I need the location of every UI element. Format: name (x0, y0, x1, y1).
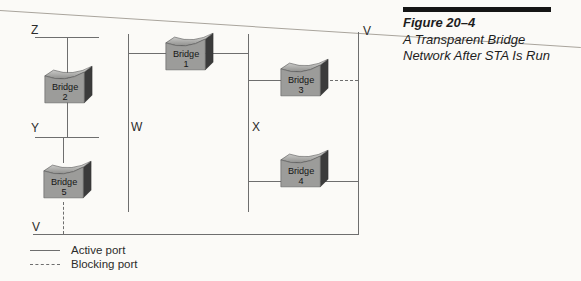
bridge-name: Bridge (52, 82, 78, 92)
active-port-line-sample (30, 250, 60, 251)
bridge-number: 3 (299, 85, 304, 95)
bridge-2-node: Bridge 2 (41, 63, 93, 108)
lan-y-segment (35, 137, 99, 138)
bridge-name: Bridge (288, 166, 314, 176)
figure-title-line2: Network After STA Is Run (403, 48, 550, 63)
lan-v-horizontal-segment (33, 234, 359, 235)
legend-item-blocking-port: Blocking port (30, 257, 137, 271)
bridge-number: 2 (63, 92, 68, 102)
bridge-icon: Bridge 5 (40, 158, 92, 203)
legend-label: Active port (71, 244, 125, 256)
lan-w-segment (128, 34, 129, 212)
bridge-name: Bridge (173, 49, 199, 59)
lan-label-w: W (131, 120, 143, 134)
lan-label-v-top: V (363, 24, 371, 38)
bridge-icon: Bridge 2 (41, 63, 93, 108)
caption-rule-bar (403, 7, 551, 12)
lan-label-v-bottom: V (32, 220, 40, 234)
legend-label: Blocking port (71, 258, 137, 270)
blocking-port-line-sample (30, 264, 60, 265)
bridge5-blocking-link-v (63, 202, 64, 234)
bridge-number: 4 (299, 176, 304, 186)
bridge-number: 5 (62, 187, 67, 197)
legend-item-active-port: Active port (30, 243, 137, 257)
bridge-icon: Bridge 1 (162, 30, 214, 75)
bridge-name: Bridge (288, 75, 314, 85)
bridge-1-node: Bridge 1 (162, 30, 214, 75)
lan-v-vertical-segment (358, 32, 359, 234)
bridge-name: Bridge (51, 177, 77, 187)
bridge-5-node: Bridge 5 (40, 158, 92, 203)
bridge-3-node: Bridge 3 (277, 56, 329, 101)
bridge-icon: Bridge 4 (277, 147, 329, 192)
figure-title-line1: A Transparent Bridge (403, 32, 525, 47)
lan-label-z: Z (31, 23, 39, 37)
legend: Active port Blocking port (30, 243, 137, 271)
bridge-4-node: Bridge 4 (277, 147, 329, 192)
lan-x-segment (248, 34, 249, 212)
bridge3-blocking-link-v (325, 80, 358, 81)
lan-label-x: X (252, 120, 260, 134)
bridge-icon: Bridge 3 (277, 56, 329, 101)
lan-label-y: Y (31, 121, 39, 135)
figure-number: Figure 20–4 (403, 15, 475, 30)
bridge-number: 1 (184, 59, 189, 69)
